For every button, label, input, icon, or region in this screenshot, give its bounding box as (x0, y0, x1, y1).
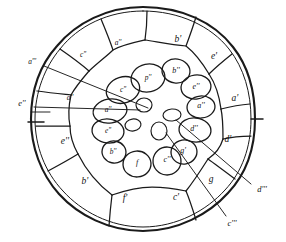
scallop-arc-right-mid (221, 109, 223, 139)
central-vacuoles-group (124, 98, 181, 140)
outer-label-a2-left: a'' (67, 93, 74, 102)
septum-1 (145, 11, 147, 40)
inner-label-e2: e'' (193, 82, 200, 91)
outer-label-c2: c'' (80, 50, 86, 59)
outer-rim-inner-circle (35, 11, 251, 227)
inner-label-f: f (136, 158, 140, 167)
vacuole-left (124, 118, 142, 132)
septa-group (36, 11, 251, 226)
inner-label-g2: g' (180, 146, 186, 155)
leader-c4 (166, 133, 226, 216)
callout-label-e4: e'' (18, 98, 26, 108)
inner-label-c2: c'' (120, 85, 126, 94)
inner-label-a2: a'' (197, 101, 205, 110)
outer-label-d1: d' (225, 134, 233, 144)
outer-label-a2: a'' (115, 38, 122, 47)
vacuole-center (151, 122, 167, 140)
outer-label-g: g (209, 174, 214, 184)
inner-cells-group (91, 57, 216, 178)
outer-segment-labels: a'' b' c'' e' a' a'' d' e'' g b' f' c' (61, 34, 239, 203)
septum-7 (221, 104, 250, 109)
inner-label-p: p'' (144, 73, 152, 82)
outer-label-e2-left: e'' (61, 136, 70, 146)
cross-section-diagram: a'' b' c'' e' a' a'' d' e'' g b' f' c' p… (0, 0, 286, 242)
scallop-arc-left-lower (70, 126, 78, 154)
outer-label-e1: e' (211, 51, 218, 61)
outer-label-b1: b' (175, 34, 183, 44)
leader-e4 (34, 107, 140, 110)
inner-cell-labels: p'' b'' c'' e'' a'' a'' d'' e'' g' b'' f… (105, 66, 205, 167)
leader-d4 (176, 120, 251, 184)
septum-10 (48, 154, 78, 171)
inner-label-a3: a'' (105, 105, 112, 114)
outer-label-a1: a' (232, 93, 240, 103)
outer-label-b1-lower: b' (82, 176, 90, 186)
callout-label-a4: a''' (28, 57, 36, 66)
figure-canvas: a'' b' c'' e' a' a'' d' e'' g b' f' c' p… (0, 0, 286, 242)
vacuole-right (163, 108, 182, 121)
callout-label-d4: d''' (257, 184, 267, 194)
inner-label-b2: b'' (172, 66, 180, 75)
septum-2 (101, 19, 113, 50)
inner-label-c3: c'' (164, 155, 171, 164)
outer-label-c1: c' (173, 192, 180, 202)
inner-label-d2: d'' (190, 124, 198, 133)
inner-label-e3: e'' (105, 126, 111, 135)
septum-3 (186, 17, 196, 46)
callout-label-c4: c''' (227, 218, 236, 228)
inner-label-b3: b'' (110, 147, 117, 156)
outer-label-f1: f' (123, 193, 129, 203)
